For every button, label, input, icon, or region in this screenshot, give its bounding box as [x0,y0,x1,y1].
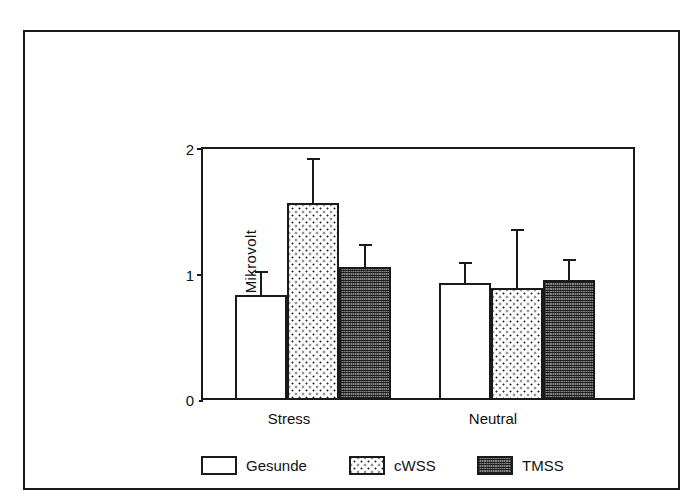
legend-label-gesunde: Gesunde [246,457,307,474]
legend-label-cwss: cWSS [394,457,436,474]
legend-item-cwss: cWSS [349,452,436,478]
legend-item-gesunde: Gesunde [201,452,307,478]
error-bar-stem-tmss-neutral [568,261,570,280]
legend-label-tmss: TMSS [522,457,564,474]
error-bar-cap-gesunde-neutral [459,262,472,264]
figure-frame: Mikrovolt 2 1 0 Stress Neutral Gesunde c… [23,30,680,490]
chart-plot-area: Mikrovolt 2 1 0 [201,147,635,400]
error-bar-cap-tmss-neutral [563,259,576,261]
bar-gesunde-stress [235,295,287,398]
error-bar-stem-gesunde-stress [260,273,262,296]
y-tick-mark-1 [197,274,203,276]
error-bar-stem-cwss-neutral [516,231,518,287]
y-tick-mark-2 [197,148,203,150]
bar-tmss-neutral [543,280,595,398]
bar-cwss-stress [287,203,339,398]
y-tick-label-1: 1 [186,267,194,284]
y-tick-label-0: 0 [186,392,194,409]
legend-swatch-cwss [349,456,385,475]
error-bar-cap-gesunde-stress [255,271,268,273]
bar-tmss-stress [339,267,391,398]
y-tick-mark-0 [199,400,203,402]
error-bar-stem-tmss-stress [364,246,366,267]
error-bar-cap-cwss-stress [307,158,320,160]
error-bar-stem-gesunde-neutral [464,264,466,283]
legend-swatch-gesunde [201,456,237,475]
bar-gesunde-neutral [439,283,491,398]
bar-cwss-neutral [491,288,543,398]
chart-legend: Gesunde cWSS TMSS [201,452,581,478]
error-bar-cap-tmss-stress [359,244,372,246]
error-bar-stem-cwss-stress [312,160,314,204]
y-tick-label-2: 2 [186,141,194,158]
legend-item-tmss: TMSS [477,452,564,478]
x-axis-label-stress: Stress [268,410,311,427]
x-axis-label-neutral: Neutral [469,410,517,427]
error-bar-cap-cwss-neutral [511,229,524,231]
legend-swatch-tmss [477,456,513,475]
